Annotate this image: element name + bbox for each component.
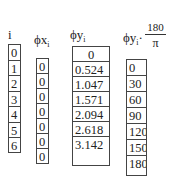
vector-cell: 1.047 (73, 77, 109, 92)
header-phi-y: ϕyi (70, 28, 86, 44)
header-phi-x-base: ϕx (34, 32, 47, 47)
vector-cell: 0 (127, 60, 146, 76)
vector-cell: 0 (37, 104, 48, 119)
vector-cell: 0 (37, 59, 48, 74)
header-phi-y-base: ϕy (70, 27, 83, 42)
vector-cell: 1 (9, 61, 20, 77)
vector-cell: 120 (127, 124, 146, 140)
header-phi-x: ϕxi (34, 33, 50, 49)
vector-cell: 0 (37, 149, 48, 165)
vector-cell: 3.142 (73, 137, 109, 165)
vector-cell: 6 (9, 138, 20, 154)
header-i: i (8, 28, 12, 41)
vector-cell: 0 (37, 134, 48, 149)
vector-cell: 180 (127, 156, 146, 176)
header-phi-y-sub: i (83, 35, 85, 44)
fraction-numerator: 180 (145, 22, 166, 34)
vector-cell: 5 (9, 123, 20, 139)
vector-phi-y-deg: 0 30 60 90 120 150 180 (126, 59, 147, 176)
vector-cell: 2 (9, 76, 20, 92)
vector-cell: 90 (127, 108, 146, 124)
vector-phi-x: 0 0 0 0 0 0 0 (36, 58, 49, 164)
vector-cell: 4 (9, 107, 20, 123)
header-i-base: i (8, 27, 12, 42)
vector-cell: 2.618 (73, 122, 109, 137)
vector-cell: 0 (37, 89, 48, 104)
vector-cell: 0 (73, 47, 109, 62)
fraction-denominator: π (145, 35, 166, 49)
vector-cell: 30 (127, 76, 146, 92)
vector-cell: 0 (37, 119, 48, 134)
vector-cell: 1.571 (73, 92, 109, 107)
vector-cell: 0 (37, 74, 48, 89)
header-phi-y-deg: ϕyi· (123, 31, 143, 47)
header-phi-y-deg-dot: · (139, 30, 143, 45)
vector-cell: 150 (127, 140, 146, 156)
vector-cell: 0.524 (73, 62, 109, 77)
vector-cell: 60 (127, 92, 146, 108)
fraction-180-over-pi: 180 π (145, 22, 166, 49)
vector-cell: 0 (9, 45, 20, 61)
header-phi-x-sub: i (47, 40, 49, 49)
vector-cell: 3 (9, 92, 20, 108)
vector-i: 0 1 2 3 4 5 6 (8, 44, 21, 153)
vector-phi-y: 0 0.524 1.047 1.571 2.094 2.618 3.142 (72, 46, 110, 166)
header-phi-y-deg-base: ϕy (123, 30, 136, 45)
vector-cell: 2.094 (73, 107, 109, 122)
